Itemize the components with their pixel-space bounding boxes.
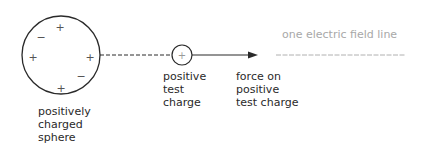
charge-minus-icon: − [76,70,85,83]
test-charge-label: positive test charge [163,70,206,109]
test-charge-plus-icon: + [178,50,186,61]
charge-minus-icon: − [36,31,45,44]
charge-plus-icon: + [56,82,65,95]
charge-plus-icon: + [85,51,94,64]
charge-plus-icon: + [28,51,37,64]
charge-plus-icon: + [55,21,64,34]
sphere-label: positively charged sphere [38,105,91,144]
force-label: force on positive test charge [236,70,298,109]
sphere-charges: + − + + − + [28,21,94,95]
arrowhead-icon [248,52,258,59]
field-line-title: one electric field line [282,28,397,41]
